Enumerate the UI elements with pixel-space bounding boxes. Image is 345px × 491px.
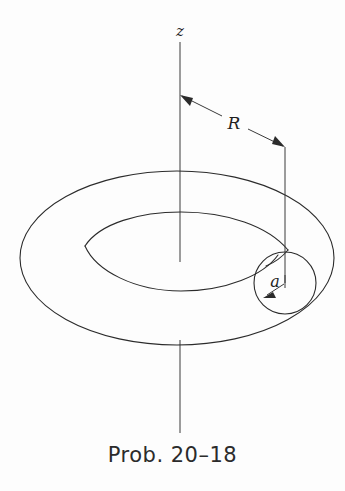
torus-inner-rim-top: [85, 212, 288, 250]
figure-container: z R a Prob. 20–18: [0, 0, 345, 491]
major-radius-arrowhead-right: [272, 136, 285, 147]
major-radius-label: R: [227, 113, 241, 133]
z-axis-label: z: [175, 22, 184, 40]
major-radius-arrowhead-left: [180, 95, 193, 106]
minor-radius-label: a: [270, 272, 280, 291]
figure-caption: Prob. 20–18: [0, 443, 345, 467]
torus-diagram: z R a: [0, 0, 345, 491]
torus-inner-rim-bottom: [85, 246, 278, 291]
torus-outer-ellipse: [20, 171, 334, 345]
